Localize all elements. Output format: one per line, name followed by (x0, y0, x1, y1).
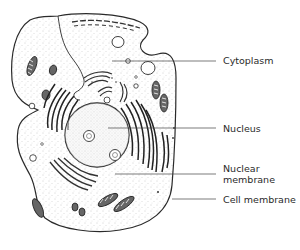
label-nuclear-membrane-line1: Nuclear (223, 163, 275, 174)
label-nucleus: Nucleus (223, 123, 261, 134)
label-cell-membrane: Cell membrane (223, 194, 296, 205)
label-nuclear-membrane: Nuclear membrane (223, 163, 275, 185)
label-cytoplasm: Cytoplasm (223, 55, 274, 66)
label-nuclear-membrane-line2: membrane (223, 174, 275, 185)
cell-diagram: Cytoplasm Nucleus Nuclear membrane Cell … (0, 0, 300, 250)
